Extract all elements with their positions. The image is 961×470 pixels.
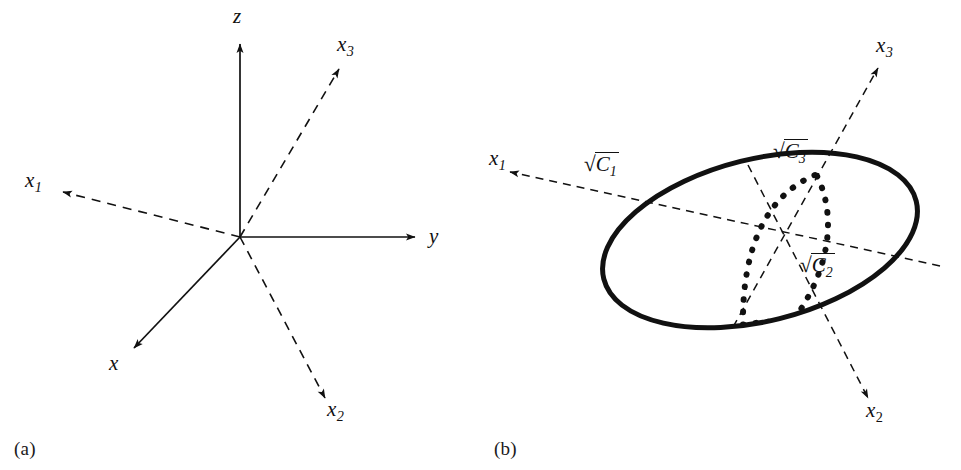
panel-b-sqrt-c2: √C2: [800, 253, 835, 280]
panel-a-x1-axis: [63, 192, 240, 237]
panel-b-sqrt-c3: √C3: [773, 139, 808, 166]
panel-a-label-z: z: [233, 6, 241, 27]
panel-b-sqrt-c2-sub: 2: [826, 265, 833, 280]
figure-root: z y x x1 x2 x3 (a): [0, 0, 961, 470]
panel-b-label-x1: x1: [489, 148, 506, 172]
panel-b-sqrt-c3-base: C: [785, 139, 799, 163]
panel-a-label-x2-base: x: [327, 397, 336, 421]
panel-b-sqrt-c1-radicand: C1: [595, 152, 619, 179]
panel-a-label-x1: x1: [25, 170, 42, 194]
panel-b-label-x3: x3: [876, 35, 893, 59]
panel-a-x-axis: [134, 237, 240, 348]
panel-b-label-x2-sub: 2: [876, 409, 883, 425]
panel-a-label-x: x: [109, 353, 118, 374]
panel-b-hidden-arc-2: [792, 176, 828, 322]
panel-b-sqrt-c1-sub: 1: [610, 164, 617, 179]
panel-b-sqrt-c3-sub: 3: [799, 151, 806, 166]
panel-b-sqrt-c1: √C1: [584, 152, 619, 179]
panel-a-label-x2-sub: 2: [337, 408, 344, 424]
panel-b-sqrt-c2-base: C: [812, 253, 826, 277]
panel-b-label-x1-base: x: [489, 146, 498, 170]
panel-b-label-x1-sub: 1: [499, 157, 506, 173]
panel-a-x3-axis: [240, 69, 339, 237]
panel-b-hidden-arc-1: [743, 175, 815, 325]
panel-a-label-x3-base: x: [337, 32, 346, 56]
panel-a: z y x x1 x2 x3 (a): [0, 0, 480, 470]
panel-b-sqrt-c1-base: C: [596, 152, 610, 176]
panel-a-label-x2: x2: [327, 399, 344, 423]
panel-a-label-x1-sub: 1: [35, 179, 42, 195]
panel-a-diagram: [0, 0, 480, 470]
panel-a-x2-axis: [240, 237, 325, 398]
panel-b-sqrt-c3-radicand: C3: [784, 139, 808, 166]
panel-b-label-x3-sub: 3: [886, 44, 893, 60]
panel-b-caption: (b): [494, 438, 517, 460]
panel-a-label-x3-sub: 3: [347, 43, 354, 59]
panel-b-label-x2: x2: [866, 400, 883, 424]
panel-b-diagram: [480, 0, 961, 470]
panel-b-sqrt-c2-radicand: C2: [811, 253, 835, 280]
panel-b-ellipse: [584, 122, 936, 357]
panel-b: x1 x2 x3 √C1 √C2 √C3 (b): [480, 0, 961, 470]
panel-a-label-x1-base: x: [25, 168, 34, 192]
panel-a-label-x3: x3: [337, 34, 354, 58]
panel-a-caption: (a): [14, 438, 36, 460]
panel-b-x2-axis: [748, 165, 868, 398]
panel-b-hidden-arcs: [743, 175, 828, 325]
panel-b-x1-axis: [510, 172, 940, 266]
panel-b-label-x3-base: x: [876, 33, 885, 57]
panel-a-label-y: y: [429, 226, 438, 247]
panel-b-label-x2-base: x: [866, 398, 875, 422]
